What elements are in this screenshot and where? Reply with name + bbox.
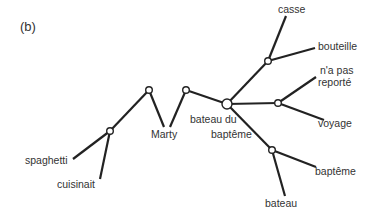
edge-junction-left-peak [110, 90, 149, 131]
dependency-tree-diagram: (b) [0, 0, 374, 217]
node-bapteme-bateau [269, 147, 276, 154]
edge-marty-right-peak [170, 90, 186, 127]
node-casse-bouteille [265, 58, 272, 65]
label-bateau-du-line2: baptême [211, 128, 252, 141]
label-reporte-line2: reporté [318, 76, 351, 89]
edge-bateau-bapteme-junction [227, 104, 272, 150]
label-bapteme: baptême [315, 165, 356, 178]
label-bateau: bateau [265, 197, 297, 210]
edge-left-peak-marty [149, 90, 164, 127]
edge-casse [268, 16, 286, 61]
label-cuisinait: cuisinait [57, 178, 95, 191]
edge-right-peak-bateau [186, 90, 227, 104]
label-casse: casse [278, 3, 305, 16]
label-voyage: voyage [318, 117, 352, 130]
label-bateau-du-line1: bateau du [190, 113, 237, 126]
edge-bateau [272, 150, 285, 196]
node-spaghetti-cuisinait [107, 128, 114, 135]
node-bateau-du-bapteme [222, 99, 232, 109]
label-marty: Marty [151, 128, 177, 141]
edge-bateau-reporte-junction [227, 103, 278, 104]
node-right-peak [183, 87, 190, 94]
edge-bouteille [268, 48, 315, 61]
node-reporte-voyage [275, 100, 282, 107]
label-bouteille: bouteille [318, 40, 357, 53]
edge-bapteme [272, 150, 316, 167]
node-left-peak [146, 87, 153, 94]
edge-reporte [278, 77, 316, 103]
label-spaghetti: spaghetti [25, 154, 68, 167]
edge-bateau-casse-junction [227, 61, 268, 104]
